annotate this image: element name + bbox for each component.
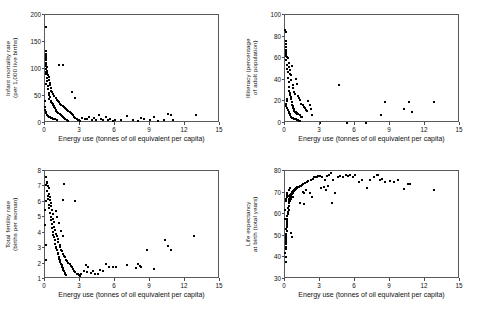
x-tick-label: 0 — [282, 282, 286, 289]
y-tick-mark — [282, 79, 285, 80]
data-point — [324, 179, 326, 181]
data-point — [52, 218, 54, 220]
data-point — [170, 114, 172, 116]
data-point — [292, 84, 294, 86]
x-tick-mark — [219, 122, 220, 125]
data-point — [153, 116, 155, 118]
data-point — [95, 119, 97, 121]
data-point — [105, 263, 107, 265]
data-point — [365, 122, 367, 124]
y-tick-label: 8 — [22, 167, 41, 174]
y-tick-mark — [282, 36, 285, 37]
x-tick-label: 12 — [180, 282, 187, 289]
data-point — [87, 266, 89, 268]
data-point — [325, 189, 327, 191]
y-axis-label-fertility: Total fertility rate (births per woman) — [4, 170, 20, 278]
data-point — [301, 116, 303, 118]
y-tick-label: 100 — [262, 11, 281, 18]
y-tick-label: 50 — [22, 92, 41, 99]
data-point — [305, 189, 307, 191]
x-tick-mark — [389, 278, 390, 281]
data-point — [102, 270, 104, 272]
y-tick-label: 20 — [262, 97, 281, 104]
data-point — [46, 190, 48, 192]
y-tick-mark — [282, 213, 285, 214]
data-point — [44, 224, 46, 226]
x-axis-label-infant-mortality: Energy use (tonnes of oil equivalent per… — [44, 135, 219, 142]
y-tick-mark — [42, 95, 45, 96]
data-point — [163, 119, 165, 121]
data-point — [54, 243, 56, 245]
x-tick-label: 0 — [42, 282, 46, 289]
x-tick-label: 9 — [147, 126, 151, 133]
data-point — [65, 274, 67, 276]
data-point — [338, 84, 340, 86]
data-point — [288, 209, 290, 211]
data-point — [49, 199, 51, 201]
data-point — [288, 205, 290, 207]
data-point — [294, 93, 296, 95]
data-point — [49, 212, 51, 214]
x-tick-mark — [44, 122, 45, 125]
data-point — [352, 176, 354, 178]
y-tick-label: 4 — [22, 228, 41, 235]
data-point — [50, 205, 52, 207]
data-point — [288, 200, 290, 202]
y-tick-mark — [42, 263, 45, 264]
data-point — [74, 200, 76, 202]
data-point — [285, 233, 287, 235]
data-point — [50, 219, 52, 221]
data-point — [44, 209, 46, 211]
data-point — [288, 81, 290, 83]
data-point — [290, 74, 292, 76]
data-point — [114, 119, 116, 121]
y-tick-mark — [42, 201, 45, 202]
y-tick-mark — [42, 170, 45, 171]
data-point — [287, 211, 289, 213]
data-point — [71, 91, 73, 93]
plot-area-fertility — [44, 170, 219, 278]
data-point — [49, 82, 51, 84]
data-point — [80, 273, 82, 275]
x-tick-label: 0 — [42, 126, 46, 133]
y-tick-label: 3 — [22, 244, 41, 251]
x-tick-label: 12 — [420, 126, 427, 133]
data-point — [285, 241, 287, 243]
y-tick-label: 60 — [262, 54, 281, 61]
data-point — [56, 235, 58, 237]
data-point — [288, 62, 290, 64]
data-point — [58, 222, 60, 224]
data-point — [286, 222, 288, 224]
data-point — [284, 252, 286, 254]
y-tick-label: 0 — [262, 119, 281, 126]
data-point — [409, 183, 411, 185]
data-point — [285, 200, 287, 202]
data-point — [377, 174, 379, 176]
x-tick-mark — [284, 278, 285, 281]
data-point — [62, 199, 64, 201]
data-point — [286, 220, 288, 222]
x-tick-label: 6 — [112, 126, 116, 133]
data-point — [309, 104, 311, 106]
data-point — [285, 256, 287, 258]
data-point — [380, 114, 382, 116]
y-tick-mark — [282, 256, 285, 257]
data-point — [384, 101, 386, 103]
data-point — [60, 230, 62, 232]
data-point — [309, 192, 311, 194]
data-point — [291, 236, 293, 238]
y-tick-label: 80 — [262, 32, 281, 39]
y-tick-label: 2 — [22, 259, 41, 266]
data-point — [285, 243, 287, 245]
data-point — [167, 113, 169, 115]
data-point — [299, 120, 301, 122]
data-point — [135, 267, 137, 269]
x-tick-mark — [459, 278, 460, 281]
data-point — [285, 43, 287, 45]
data-point — [132, 119, 134, 121]
data-point — [45, 259, 47, 261]
x-tick-label: 3 — [317, 126, 321, 133]
y-tick-label: 5 — [22, 213, 41, 220]
x-axis-label-life-expectancy: Energy use (tonnes of oil equivalent per… — [284, 291, 459, 298]
data-point — [403, 188, 405, 190]
